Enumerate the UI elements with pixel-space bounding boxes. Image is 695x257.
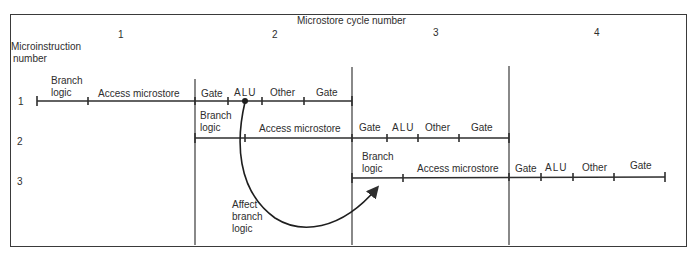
row1-access-microstore: Access microstore: [98, 88, 180, 100]
row2-other: Other: [425, 122, 450, 134]
row2-branch-logic-line2: logic: [200, 122, 221, 134]
row-axis-label-line2: number: [13, 53, 47, 65]
row1-branch-logic-line2: logic: [51, 87, 72, 99]
annotation-line3: logic: [232, 223, 253, 235]
row1-gate-2: Gate: [316, 87, 338, 99]
row1-alu: ALU: [234, 87, 256, 99]
row-label-1: 1: [18, 96, 24, 108]
row1-branch-logic-line1: Branch: [51, 75, 83, 87]
row-label-2: 2: [17, 136, 23, 148]
row2-alu: ALU: [392, 122, 414, 134]
timing-diagram: [0, 0, 695, 257]
affect-branch-logic-arrow: [240, 102, 377, 227]
row3-alu: ALU: [545, 162, 567, 174]
cycle-label-2: 2: [272, 29, 278, 41]
row2-gate-1: Gate: [359, 122, 381, 134]
row3-other: Other: [582, 162, 607, 174]
row3-access-microstore: Access microstore: [417, 163, 499, 175]
row-label-3: 3: [17, 176, 23, 188]
annotation-line2: branch: [232, 211, 263, 223]
row2-branch-logic-line1: Branch: [200, 110, 232, 122]
row2-gate-2: Gate: [471, 122, 493, 134]
cycle-label-4: 4: [594, 27, 600, 39]
row1-gate-1: Gate: [201, 88, 223, 100]
row1-other: Other: [270, 87, 295, 99]
row-2-timeline: [195, 133, 509, 143]
annotation-line1: Affect: [232, 199, 257, 211]
row-axis-label-line1: Microinstruction: [11, 41, 81, 53]
cycle-axis-title: Microstore cycle number: [297, 15, 406, 27]
row2-access-microstore: Access microstore: [259, 123, 341, 135]
row3-gate-2: Gate: [630, 160, 652, 172]
row-1-timeline: [37, 96, 352, 106]
cycle-label-3: 3: [433, 27, 439, 39]
cycle-label-1: 1: [118, 29, 124, 41]
row3-branch-logic-line2: logic: [362, 163, 383, 175]
row3-branch-logic-line1: Branch: [362, 151, 394, 163]
row3-gate-1: Gate: [515, 163, 537, 175]
